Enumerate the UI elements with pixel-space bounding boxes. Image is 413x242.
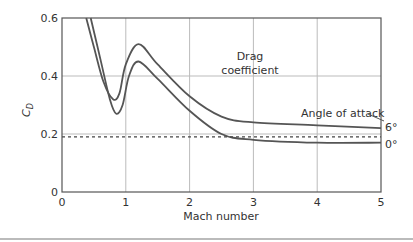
legend-label-6deg: 6° (385, 121, 398, 134)
legend-label-0deg: 0° (385, 138, 398, 151)
x-axis-label: Mach number (183, 210, 259, 223)
plot-frame (62, 18, 381, 192)
drag-coefficient-chart: 012345 00.20.40.6 Mach number CD Drag co… (0, 0, 413, 242)
annotation-coefficient: coefficient (221, 64, 279, 77)
x-tick-label: 1 (122, 196, 129, 209)
x-tick-label: 3 (250, 196, 257, 209)
y-tick-label: 0.2 (41, 128, 59, 141)
data-series (62, 18, 381, 143)
x-tick-label: 2 (186, 196, 193, 209)
y-tick-label: 0.4 (41, 70, 59, 83)
grid-lines (62, 18, 381, 192)
annotation-drag: Drag (237, 50, 264, 63)
x-tick-label: 5 (378, 196, 385, 209)
series-line-0deg (91, 18, 381, 143)
y-axis-label: CD (20, 103, 35, 117)
y-axis-ticks: 00.20.40.6 (41, 12, 59, 199)
x-tick-label: 0 (59, 196, 66, 209)
y-tick-label: 0 (51, 186, 58, 199)
x-axis-ticks: 012345 (59, 196, 385, 209)
legend-title: Angle of attack (301, 107, 385, 120)
y-tick-label: 0.6 (41, 12, 59, 25)
x-tick-label: 4 (314, 196, 321, 209)
